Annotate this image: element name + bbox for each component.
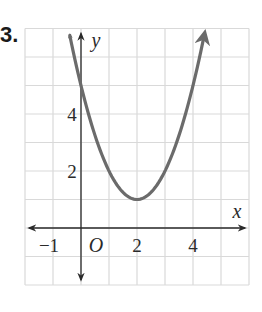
y-tick-label: 4	[67, 104, 77, 125]
y-axis-label: y	[90, 29, 101, 52]
x-tick-label: 2	[132, 235, 142, 256]
x-tick-label: −1	[39, 235, 59, 256]
x-axis-label: x	[232, 200, 242, 222]
y-tick-label: 2	[67, 161, 77, 182]
x-tick-label: 4	[188, 235, 198, 256]
parabola-graph: −12424Oxy	[0, 0, 262, 312]
origin-label: O	[89, 234, 103, 256]
